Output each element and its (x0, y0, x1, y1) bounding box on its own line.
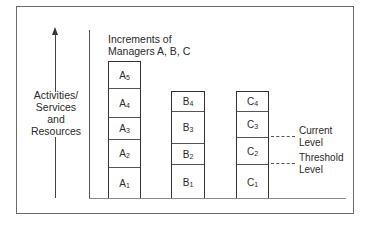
title-line-2: Managers A, B, C (108, 45, 190, 57)
threshold-level-line-1: Threshold (299, 152, 343, 164)
increment-b3: B3 (172, 111, 204, 143)
threshold-level-line-2: Level (299, 164, 343, 176)
column-c: C4 C3 C2 C1 (236, 91, 269, 198)
increment-c1: C1 (237, 164, 268, 199)
column-b: B4 B3 B2 B1 (171, 91, 205, 198)
increment-a4: A4 (109, 88, 140, 117)
y-label-line-2: Services (22, 101, 90, 113)
threshold-level-dash (271, 163, 295, 164)
y-label-line-4: Resources (22, 125, 90, 137)
diagram-title: Increments of Managers A, B, C (108, 33, 190, 57)
y-axis-line (89, 30, 90, 199)
y-axis-label: Activities/ Services and Resources (22, 89, 90, 137)
increment-c2: C2 (237, 137, 268, 164)
current-level-line-2: Level (299, 137, 332, 149)
increment-a3: A3 (109, 117, 140, 139)
current-level-line-1: Current (299, 125, 332, 137)
y-label-line-3: and (22, 113, 90, 125)
increment-a5: A5 (109, 62, 140, 88)
title-line-1: Increments of (108, 33, 190, 45)
y-label-line-1: Activities/ (22, 89, 90, 101)
increment-b4: B4 (172, 92, 204, 111)
column-a: A5 A4 A3 A2 A1 (108, 61, 141, 198)
arrow-shaft-lower (55, 137, 56, 198)
increment-a1: A1 (109, 167, 140, 199)
increment-c3: C3 (237, 111, 268, 137)
increment-c4: C4 (237, 92, 268, 111)
increment-a2: A2 (109, 139, 140, 167)
threshold-level-label: Threshold Level (299, 152, 343, 175)
increment-b1: B1 (172, 164, 204, 199)
increment-b2: B2 (172, 143, 204, 164)
current-level-label: Current Level (299, 125, 332, 148)
current-level-dash (271, 136, 295, 137)
arrow-shaft-upper (55, 32, 56, 92)
